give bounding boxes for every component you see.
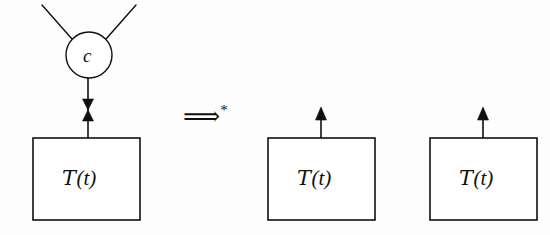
right-box-label-arg: (t) [474, 166, 494, 190]
kleene-star-superscript: * [220, 102, 228, 118]
left-box-label: T(t) [62, 168, 96, 189]
rewrite-arrow-label: ⟹* [183, 103, 228, 130]
left-box-label-arg: (t) [77, 166, 97, 190]
double-arrow-icon: ⟹ [183, 102, 220, 131]
middle-box-up-arrowhead-icon [316, 107, 327, 120]
middle-box-label-arg: (t) [312, 166, 332, 190]
middle-box-label-script: T [297, 166, 312, 190]
down-arrowhead-icon [83, 99, 94, 110]
upper-right-edge [106, 5, 136, 39]
right-box-label-script: T [459, 166, 474, 190]
right-box-label: T(t) [459, 168, 493, 189]
right-term-graphs [268, 107, 537, 220]
middle-box-label: T(t) [297, 168, 331, 189]
left-box-label-script: T [62, 166, 77, 190]
diagram-canvas [0, 0, 550, 235]
rewrite-diagram: c T(t) ⟹* T(t) T(t) [0, 0, 550, 235]
right-box-up-arrowhead-icon [478, 107, 489, 120]
node-c-label: c [83, 46, 91, 65]
up-arrowhead-icon [83, 110, 94, 121]
upper-left-edge [42, 5, 72, 39]
